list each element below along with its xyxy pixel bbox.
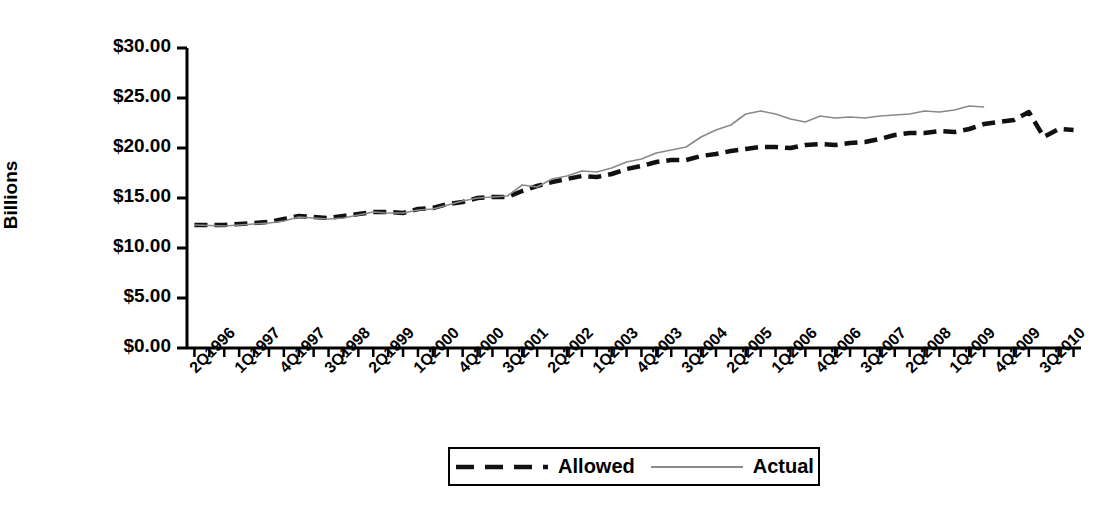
- y-axis-tick-label: $10.00: [51, 235, 171, 257]
- y-axis-tick-label: $5.00: [51, 285, 171, 307]
- y-axis-tick-label: $15.00: [51, 185, 171, 207]
- y-axis-tick-label: $0.00: [51, 335, 171, 357]
- legend-item-actual: Actual: [649, 455, 814, 478]
- legend-label-allowed: Allowed: [558, 455, 635, 478]
- y-axis-tick-label: $25.00: [51, 85, 171, 107]
- series-line-allowed: [194, 112, 1073, 225]
- y-axis-tick-label: $30.00: [51, 35, 171, 57]
- legend-label-actual: Actual: [753, 455, 814, 478]
- series-line-actual: [194, 106, 984, 226]
- chart-plot-area: [0, 0, 1118, 522]
- legend-item-allowed: Allowed: [454, 455, 635, 478]
- chart-legend: Allowed Actual: [448, 447, 820, 486]
- solid-line-swatch: [649, 462, 745, 472]
- chart-container: Billions Allowed Actual $30.00$25.00$20.…: [0, 0, 1118, 522]
- y-axis-tick-label: $20.00: [51, 135, 171, 157]
- dashed-line-swatch: [454, 462, 550, 472]
